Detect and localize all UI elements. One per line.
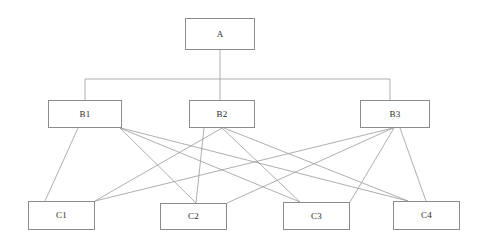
root-to-middle-bus	[85, 50, 390, 100]
node-box-c1[interactable]: C1	[28, 201, 95, 230]
edge-b1-to-c3	[120, 128, 300, 202]
edge-b1-to-c1	[45, 128, 78, 201]
edge-b1-to-c4	[121, 128, 408, 201]
node-label-a: A	[217, 30, 224, 39]
node-label-c4: C4	[421, 211, 432, 220]
edge-b3-to-c3	[350, 128, 394, 202]
edge-b3-to-c1	[95, 128, 393, 201]
node-label-b3: B3	[390, 110, 401, 119]
node-box-b3[interactable]: B3	[360, 100, 430, 128]
node-box-b2[interactable]: B2	[189, 100, 255, 128]
node-label-b1: B1	[80, 110, 91, 119]
node-box-b1[interactable]: B1	[48, 100, 122, 128]
node-box-c2[interactable]: C2	[160, 203, 227, 230]
node-label-c2: C2	[188, 212, 199, 221]
node-box-a[interactable]: A	[185, 18, 255, 50]
edge-b2-to-c2	[196, 128, 204, 203]
edge-b3-to-c4	[400, 128, 426, 201]
middle-to-leaf-edges	[45, 128, 426, 203]
node-box-c4[interactable]: C4	[393, 201, 460, 230]
node-label-c1: C1	[56, 211, 67, 220]
edge-b2-to-c3	[222, 128, 300, 202]
diagram-canvas: AB1B2B3C1C2C3C4	[0, 0, 482, 246]
node-label-c3: C3	[311, 212, 322, 221]
node-label-b2: B2	[217, 110, 228, 119]
node-box-c3[interactable]: C3	[283, 202, 350, 230]
edge-b2-to-c4	[224, 128, 408, 201]
